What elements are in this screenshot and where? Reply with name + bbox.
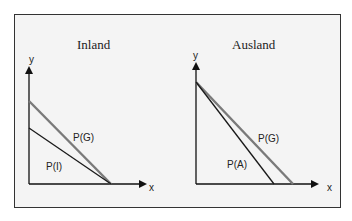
line-label-pg: P(G): [73, 132, 94, 143]
y-axis-label: y: [193, 50, 198, 61]
line-label-pg: P(G): [258, 133, 279, 144]
line-label-pa: P(A): [227, 159, 247, 170]
x-axis-label: x: [327, 182, 332, 193]
line-pi: [29, 128, 111, 184]
panel-title: Inland: [77, 37, 111, 52]
line-pg: [29, 101, 111, 184]
line-label-pi: P(I): [46, 161, 62, 172]
x-axis-label: x: [149, 182, 154, 193]
panel-ausland: Ausland y x P(G) P(A): [193, 37, 332, 193]
panel-title: Ausland: [232, 37, 276, 52]
diagram-canvas: Inland y x P(G) P(I) Ausland y x P(G) P(…: [0, 0, 352, 221]
panel-inland: Inland y x P(G) P(I): [29, 37, 154, 193]
y-axis-label: y: [29, 54, 34, 65]
